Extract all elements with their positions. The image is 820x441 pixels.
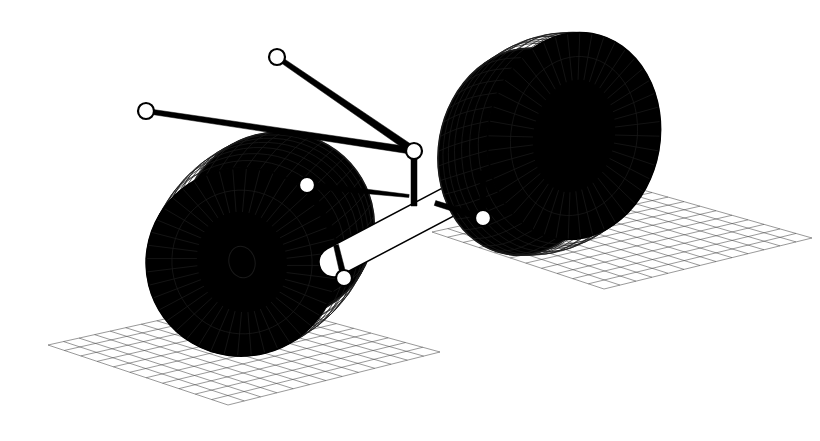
joint-upper-top-tie-rod-end xyxy=(269,49,285,65)
joint-upper-left-tie-rod-end xyxy=(138,103,154,119)
joint-right-drop-link-base xyxy=(475,210,491,226)
joint-lower-control-arm-pivot xyxy=(336,270,352,286)
joint-upper-control-arm-pivot xyxy=(299,177,315,193)
axle-assembly-diagram xyxy=(0,0,820,441)
joint-center-knuckle xyxy=(406,143,422,159)
technical-illustration-canvas xyxy=(0,0,820,441)
